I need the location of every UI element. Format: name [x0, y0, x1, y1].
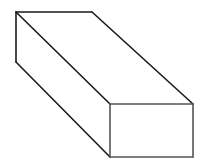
- top-diagonal-right-edge: [92, 12, 193, 104]
- bottom-diagonal-left-edge: [16, 62, 110, 157]
- top-diagonal-left-edge: [16, 12, 110, 104]
- box-diagram: [0, 0, 203, 164]
